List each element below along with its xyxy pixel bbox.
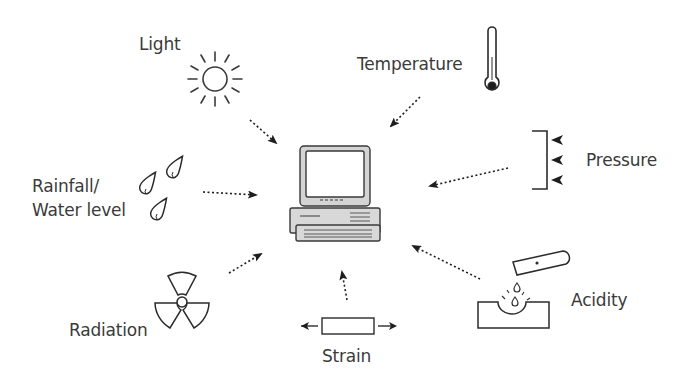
raindrops-icon: [138, 153, 184, 222]
computer-icon: [290, 146, 380, 241]
arrow-radiation: [229, 254, 261, 273]
sensor-diagram: Light Temperature Pressure Rainfall/ Wat…: [0, 0, 688, 384]
arrow-rainfall: [203, 192, 256, 195]
arrow-pressure: [430, 168, 508, 186]
acid-dropper-icon: [478, 251, 569, 328]
label-light: Light: [139, 33, 180, 55]
arrow-strain: [342, 272, 347, 300]
pressure-plate-icon: [532, 131, 563, 189]
label-strain: Strain: [322, 345, 371, 367]
arrow-acidity: [413, 246, 480, 279]
label-temperature: Temperature: [357, 53, 463, 75]
radiation-icon: [155, 273, 209, 328]
strain-bar-icon: [301, 318, 397, 334]
label-radiation: Radiation: [69, 319, 148, 341]
sun-icon: [188, 52, 242, 106]
label-water-level: Water level: [32, 199, 126, 221]
label-rainfall: Rainfall/: [32, 175, 99, 197]
thermometer-icon: [485, 27, 499, 90]
label-acidity: Acidity: [571, 289, 627, 311]
arrow-temperature: [391, 97, 420, 126]
label-pressure: Pressure: [586, 149, 657, 171]
arrow-light: [250, 120, 276, 143]
